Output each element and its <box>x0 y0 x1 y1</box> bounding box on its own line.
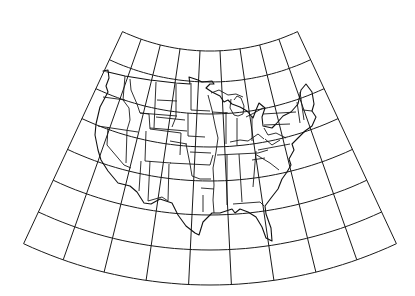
meridian-line <box>298 32 397 244</box>
border-va-wv-md <box>264 128 286 145</box>
border-id-mt <box>130 79 150 129</box>
border-mt-wy <box>140 113 177 116</box>
border-id-west <box>123 76 130 130</box>
border-wy-sd <box>154 82 156 128</box>
meridian-line <box>279 39 357 260</box>
border-ga-fl <box>233 202 264 206</box>
graticule <box>24 32 397 285</box>
meridian-line <box>63 39 141 260</box>
border-wi-il <box>212 112 228 144</box>
border-or-ca-nv <box>98 126 138 132</box>
state-boundaries <box>98 76 312 213</box>
border-ok-tx <box>170 163 211 179</box>
parallel-line <box>53 180 367 215</box>
border-az-nm <box>139 161 141 191</box>
map-canvas <box>0 0 415 296</box>
border-wa-or <box>103 97 125 100</box>
border-la-ms <box>201 188 214 212</box>
parallel-line <box>38 212 381 250</box>
border-in-oh <box>237 116 252 146</box>
parallel-line <box>123 32 298 51</box>
